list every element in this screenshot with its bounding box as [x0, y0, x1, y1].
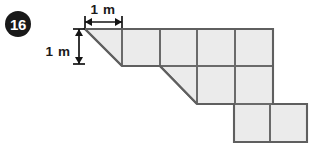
vertical-dimension-arrow-bottom-icon [75, 57, 83, 64]
horizontal-dimension: 1 m [85, 2, 122, 28]
geometry-figure-svg: 16 1 m 1 m [0, 0, 319, 162]
vertical-dimension: 1 m [45, 29, 85, 64]
badge-label: 16 [10, 16, 26, 33]
vertical-dimension-label: 1 m [45, 44, 70, 59]
question-number-badge: 16 [5, 11, 31, 37]
composite-polygon-group [85, 29, 307, 142]
geometry-figure-container: 16 1 m 1 m [0, 0, 319, 162]
horizontal-dimension-arrow-right-icon [115, 18, 122, 26]
horizontal-dimension-arrow-left-icon [85, 18, 92, 26]
vertical-dimension-arrow-top-icon [75, 29, 83, 36]
horizontal-dimension-label: 1 m [90, 2, 115, 17]
